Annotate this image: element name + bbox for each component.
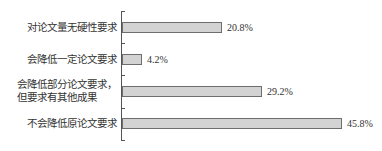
category-label: 不会降低原论文要求 xyxy=(27,117,117,130)
axis-tick xyxy=(121,11,125,12)
value-label: 20.8% xyxy=(227,22,253,34)
axis-tick xyxy=(121,140,125,141)
category-label-line: 对论文量无硬性要求 xyxy=(27,21,117,33)
bar xyxy=(122,118,342,129)
category-label-line: 会降低部分论文要求， xyxy=(17,78,117,91)
axis-tick xyxy=(121,108,125,109)
value-label: 4.2% xyxy=(147,54,168,66)
axis-tick xyxy=(121,75,125,76)
category-label-line: 但要求有其他成果 xyxy=(17,91,117,104)
category-label: 会降低部分论文要求， 但要求有其他成果 xyxy=(17,78,117,104)
bar-chart: 对论文量无硬性要求 20.8% 会降低一定论文要求 4.2% 会降低部分论文要求… xyxy=(0,0,382,151)
bar xyxy=(122,22,222,33)
category-label: 会降低一定论文要求 xyxy=(27,53,117,66)
axis-tick xyxy=(121,43,125,44)
category-label-line: 不会降低原论文要求 xyxy=(27,117,117,129)
value-label: 45.8% xyxy=(347,118,373,130)
value-label: 29.2% xyxy=(267,86,293,98)
bar xyxy=(122,86,262,97)
category-label-line: 会降低一定论文要求 xyxy=(27,53,117,65)
bar xyxy=(122,54,142,65)
category-label: 对论文量无硬性要求 xyxy=(27,21,117,34)
